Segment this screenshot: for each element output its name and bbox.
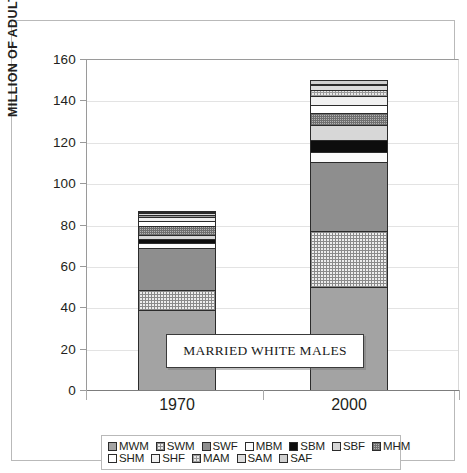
legend-label: SWF — [213, 440, 238, 452]
legend-item-mam[interactable]: MAM — [192, 452, 230, 464]
gridline — [87, 143, 458, 144]
bar-segment-sam-2000 — [310, 85, 388, 90]
legend-label: MAM — [203, 452, 230, 464]
legend-swatch-icon — [237, 454, 246, 463]
bar-segment-sam-1970 — [138, 213, 216, 215]
legend-label: SBF — [343, 440, 365, 452]
legend-label: SWM — [167, 440, 195, 452]
callout-text: MARRIED WHITE MALES — [183, 343, 347, 359]
legend-item-sbm[interactable]: SBM — [289, 440, 325, 452]
y-tick-mark — [80, 225, 86, 226]
legend-swatch-icon — [279, 454, 288, 463]
legend-item-mhm[interactable]: MHM — [372, 440, 410, 452]
bar-segment-mbm-2000 — [310, 152, 388, 162]
legend-swatch-icon — [202, 442, 211, 451]
bar-segment-swm-2000 — [310, 231, 388, 287]
y-tick-mark — [80, 183, 86, 184]
legend-item-mwm[interactable]: MWM — [108, 440, 149, 452]
y-tick-label: 160 — [42, 52, 76, 67]
y-tick-label: 100 — [42, 176, 76, 191]
bar-segment-shm-1970 — [138, 221, 216, 225]
y-tick-label: 20 — [42, 341, 76, 356]
legend-swatch-icon — [372, 442, 381, 451]
bar-segment-saf-2000 — [310, 80, 388, 85]
bar-segment-shf-2000 — [310, 96, 388, 104]
y-tick-label: 60 — [42, 258, 76, 273]
legend-label: SHF — [162, 452, 185, 464]
y-tick-mark — [80, 349, 86, 350]
legend-item-swm[interactable]: SWM — [156, 440, 195, 452]
bar-segment-sbf-1970 — [138, 235, 216, 239]
gridline — [87, 184, 458, 185]
legend-label: SAM — [248, 452, 273, 464]
x-axis-line — [86, 390, 460, 391]
legend-swatch-icon — [192, 454, 201, 463]
bar-segment-mam-2000 — [310, 90, 388, 96]
x-tick-mark — [459, 390, 460, 400]
y-axis-title: MILLION OF ADULTS — [6, 0, 20, 117]
legend-label: SHM — [119, 452, 144, 464]
bar-segment-mhm-2000 — [310, 113, 388, 125]
bar-segment-sbf-2000 — [310, 125, 388, 139]
legend-row-1: MWMSWMSWFMBMSBMSBFMHM — [108, 440, 395, 452]
bar-segment-shm-2000 — [310, 105, 388, 113]
x-tick-mark — [263, 390, 264, 400]
x-tick-mark — [86, 390, 87, 400]
y-tick-label: 0 — [42, 383, 76, 398]
chart-legend: MWMSWMSWFMBMSBMSBFMHM SHMSHFMAMSAMSAF — [101, 435, 401, 470]
y-tick-mark — [80, 59, 86, 60]
bar-segment-shf-1970 — [138, 217, 216, 221]
legend-swatch-icon — [332, 442, 341, 451]
x-tick-label: 1970 — [117, 396, 237, 414]
legend-item-saf[interactable]: SAF — [279, 452, 312, 464]
y-tick-mark — [80, 100, 86, 101]
legend-item-sbf[interactable]: SBF — [332, 440, 365, 452]
bar-segment-saf-1970 — [138, 211, 216, 213]
legend-label: SBM — [300, 440, 325, 452]
bar-segment-swf-2000 — [310, 162, 388, 230]
y-tick-label: 80 — [42, 217, 76, 232]
legend-row-2: SHMSHFMAMSAMSAF — [108, 452, 395, 464]
legend-label: MHM — [383, 440, 410, 452]
legend-swatch-icon — [108, 442, 117, 451]
callout-married-white-males: MARRIED WHITE MALES — [166, 334, 364, 368]
y-tick-mark — [80, 142, 86, 143]
legend-swatch-icon — [108, 454, 117, 463]
bar-segment-mam-1970 — [138, 215, 216, 217]
bar-segment-mbm-1970 — [138, 243, 216, 248]
legend-label: SAF — [290, 452, 312, 464]
legend-label: MBM — [256, 440, 283, 452]
legend-swatch-icon — [151, 454, 160, 463]
legend-label: MWM — [119, 440, 149, 452]
legend-item-shm[interactable]: SHM — [108, 452, 144, 464]
chart-frame: MILLION OF ADULTS 020406080100120140160 … — [11, 20, 455, 461]
legend-item-shf[interactable]: SHF — [151, 452, 185, 464]
y-tick-mark — [80, 266, 86, 267]
legend-swatch-icon — [156, 442, 165, 451]
bar-segment-swm-1970 — [138, 290, 216, 311]
bar-segment-sbm-1970 — [138, 239, 216, 243]
x-tick-label: 2000 — [289, 396, 409, 414]
y-tick-label: 140 — [42, 93, 76, 108]
y-tick-mark — [80, 307, 86, 308]
legend-swatch-icon — [289, 442, 298, 451]
legend-item-sam[interactable]: SAM — [237, 452, 273, 464]
bar-segment-mhm-1970 — [138, 226, 216, 235]
legend-item-mbm[interactable]: MBM — [245, 440, 283, 452]
y-tick-label: 120 — [42, 134, 76, 149]
legend-swatch-icon — [245, 442, 254, 451]
y-tick-label: 40 — [42, 300, 76, 315]
gridline — [87, 101, 458, 102]
bar-segment-swf-1970 — [138, 248, 216, 289]
bar-segment-sbm-2000 — [310, 140, 388, 152]
legend-item-swf[interactable]: SWF — [202, 440, 238, 452]
